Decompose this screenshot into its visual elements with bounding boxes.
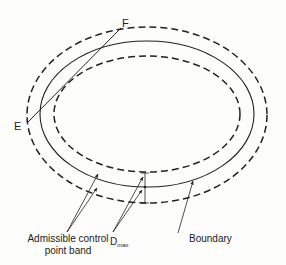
dmax-center-dot: [144, 186, 147, 189]
label-admissible-line2: point band: [16, 245, 120, 257]
diagram-graphic: [0, 0, 286, 265]
label-point-f: F: [122, 17, 129, 29]
diagram-canvas: E F Admissible control point band Dmax B…: [0, 0, 286, 265]
label-dmax-sub: max: [117, 242, 128, 248]
segment-ef: [28, 28, 121, 122]
label-point-e: E: [14, 120, 21, 132]
label-boundary: Boundary: [189, 233, 232, 245]
dmax-arrow-lower: [113, 190, 142, 232]
boundary-arrow: [178, 181, 193, 233]
label-admissible-band: Admissible control point band: [16, 233, 120, 257]
admissible-arrow-lower: [67, 188, 97, 232]
boundary-ellipse: [40, 41, 254, 187]
outer-dashed-ellipse: [27, 27, 267, 203]
dmax-arrow-upper: [113, 177, 143, 232]
label-admissible-line1: Admissible control: [16, 233, 120, 245]
inner-dashed-ellipse: [54, 56, 240, 172]
label-dmax: Dmax: [110, 236, 129, 251]
